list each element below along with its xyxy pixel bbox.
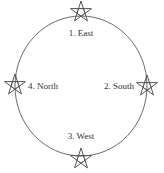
pentagram-icon-west: [71, 148, 92, 168]
label-east: 1. East: [69, 28, 94, 38]
pentagram-circle-diagram: 1. East2. South3. West4. North: [0, 0, 164, 173]
label-west: 3. West: [68, 131, 95, 141]
pentagram-icon-east: [71, 1, 92, 21]
label-south: 2. South: [104, 81, 135, 91]
label-north: 4. North: [28, 81, 58, 91]
